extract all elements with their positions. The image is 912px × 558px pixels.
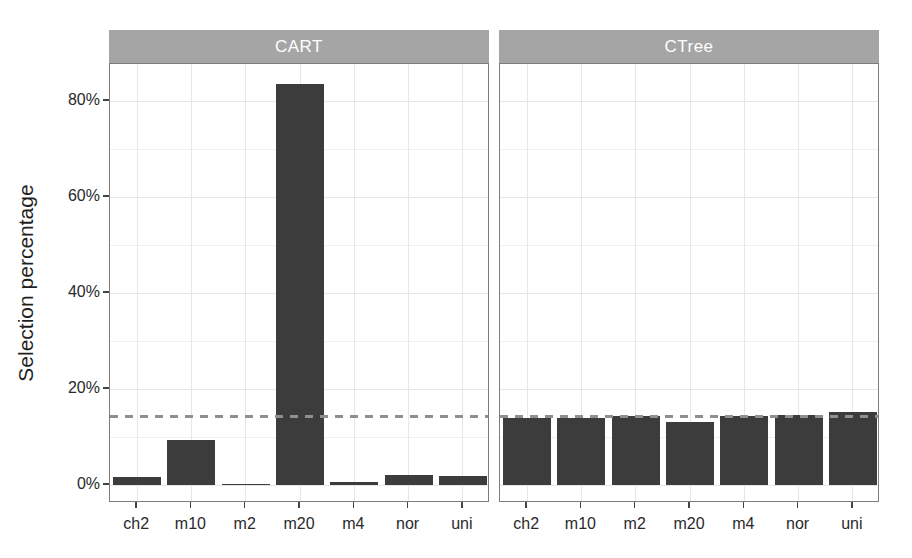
- bar-m2: [222, 484, 270, 485]
- facet-cart: CART ch2m10m2m20m4noruni: [109, 30, 489, 530]
- bar-ch2: [503, 418, 551, 485]
- y-axis-title: Selection percentage: [14, 184, 38, 381]
- x-tick-label-nor: nor: [768, 515, 828, 533]
- panel-ctree: [499, 63, 879, 502]
- y-tick-label-80%: 80%: [38, 91, 100, 109]
- x-tick-mark: [353, 502, 355, 508]
- x-tick-mark: [190, 502, 192, 508]
- reference-line: [500, 415, 878, 418]
- bar-m20: [666, 422, 714, 485]
- x-tick-mark: [634, 502, 636, 508]
- v-gridline: [137, 64, 138, 501]
- selection-percentage-chart: Selection percentage CART ch2m10m2m20m4n…: [0, 0, 912, 558]
- x-tick-label-m10: m10: [550, 515, 610, 533]
- facet-strip-cart: CART: [109, 30, 489, 63]
- x-tick-label-m4: m4: [323, 515, 383, 533]
- x-tick-label-m20: m20: [659, 515, 719, 533]
- bar-m10: [557, 418, 605, 485]
- x-tick-mark: [688, 502, 690, 508]
- v-gridline: [354, 64, 355, 501]
- v-gridline: [462, 64, 463, 501]
- x-tick-label-uni: uni: [822, 515, 882, 533]
- bar-m10: [167, 440, 215, 485]
- x-tick-label-uni: uni: [432, 515, 492, 533]
- v-gridline: [408, 64, 409, 501]
- bar-nor: [385, 475, 433, 485]
- x-tick-mark: [298, 502, 300, 508]
- panel-cart: [109, 63, 489, 502]
- x-tick-mark: [797, 502, 799, 508]
- bar-nor: [775, 415, 823, 485]
- x-tick-label-m2: m2: [605, 515, 665, 533]
- x-tick-mark: [851, 502, 853, 508]
- bar-m2: [612, 416, 660, 485]
- bar-m4: [330, 482, 378, 485]
- x-tick-mark: [244, 502, 246, 508]
- bar-uni: [439, 476, 487, 485]
- facet-strip-label: CART: [275, 37, 323, 57]
- x-tick-mark: [407, 502, 409, 508]
- y-tick-label-40%: 40%: [38, 283, 100, 301]
- x-tick-label-m10: m10: [160, 515, 220, 533]
- x-tick-label-m2: m2: [215, 515, 275, 533]
- facet-strip-ctree: CTree: [499, 30, 879, 63]
- y-tick-label-60%: 60%: [38, 187, 100, 205]
- bar-m4: [720, 416, 768, 485]
- v-gridline: [245, 64, 246, 501]
- x-tick-label-nor: nor: [378, 515, 438, 533]
- v-gridline: [191, 64, 192, 501]
- x-tick-mark: [461, 502, 463, 508]
- x-tick-label-ch2: ch2: [106, 515, 166, 533]
- x-tick-mark: [135, 502, 137, 508]
- x-tick-mark: [743, 502, 745, 508]
- bar-m20: [276, 84, 324, 485]
- y-tick-label-20%: 20%: [38, 379, 100, 397]
- x-tick-mark: [525, 502, 527, 508]
- reference-line: [110, 415, 488, 418]
- facet-strip-label: CTree: [664, 37, 713, 57]
- bar-ch2: [113, 477, 161, 485]
- x-tick-label-m20: m20: [269, 515, 329, 533]
- bar-uni: [829, 412, 877, 485]
- x-tick-label-ch2: ch2: [496, 515, 556, 533]
- x-tick-mark: [580, 502, 582, 508]
- x-tick-label-m4: m4: [713, 515, 773, 533]
- facet-ctree: CTree ch2m10m2m20m4noruni: [499, 30, 879, 530]
- y-tick-label-0%: 0%: [38, 475, 100, 493]
